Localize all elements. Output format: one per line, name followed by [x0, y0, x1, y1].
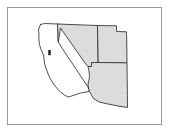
screenshot-root [0, 0, 169, 137]
state-utah[interactable] [98, 26, 128, 63]
southwest-states-map [0, 0, 169, 137]
state-arizona[interactable] [88, 63, 128, 108]
san-francisco-bay-marker [48, 50, 51, 55]
state-group-arizona[interactable] [88, 63, 128, 108]
state-group-utah[interactable] [98, 26, 128, 63]
